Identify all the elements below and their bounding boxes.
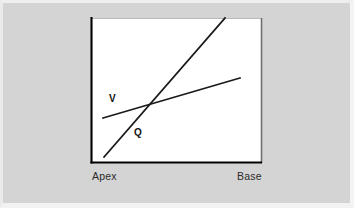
curve-label-v: V xyxy=(109,93,116,104)
figure-canvas: V Q Apex Base xyxy=(0,0,354,208)
x-axis-tick-label-base: Base xyxy=(237,170,262,182)
curve-label-q: Q xyxy=(134,127,142,138)
x-axis-tick-label-apex: Apex xyxy=(92,170,117,182)
plot-svg xyxy=(0,0,354,208)
